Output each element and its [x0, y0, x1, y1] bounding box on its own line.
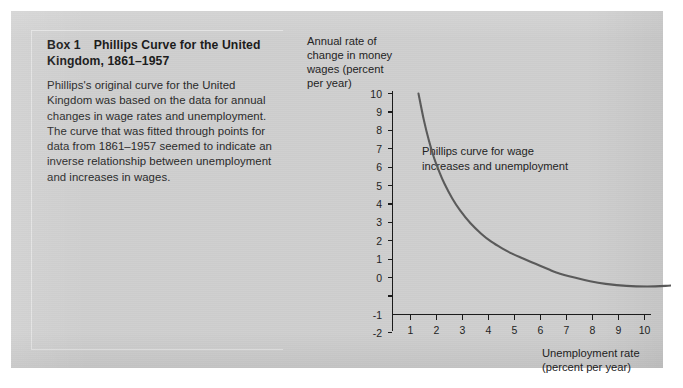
- box-text-container: Box 1Phillips Curve for the United Kingd…: [47, 38, 275, 185]
- y-tick-2: 2: [376, 235, 382, 247]
- x-tick-6: 6: [538, 324, 544, 336]
- x-axis-tick-labels: 1 2 3 4 5 6 7 8 9 10: [408, 324, 651, 336]
- y-tick-6: 6: [376, 161, 382, 173]
- phillips-curve-line: [419, 94, 672, 287]
- y-tick-neg1: -1: [373, 309, 382, 321]
- y-axis-label-line2: change in money: [307, 49, 393, 61]
- y-tick-3: 3: [376, 216, 382, 228]
- y-tick-5: 5: [376, 180, 382, 192]
- y-axis-tick-labels: 10 9 8 7 6 5 4 3 2 1 0 -1 -2: [370, 88, 382, 339]
- x-tick-9: 9: [616, 324, 622, 336]
- y-axis-label-line4: per year): [307, 77, 352, 89]
- y-tick-neg2: -2: [373, 327, 382, 339]
- box-title: Box 1Phillips Curve for the United Kingd…: [47, 38, 275, 69]
- y-tick-7: 7: [376, 143, 382, 155]
- x-tick-2: 2: [434, 324, 440, 336]
- box-number-label: Box 1: [47, 38, 81, 52]
- y-tick-8: 8: [376, 124, 382, 136]
- curve-annotation-line1: Phillips curve for wage: [422, 145, 534, 157]
- x-axis-label-line2: (percent per year): [542, 361, 631, 373]
- y-tick-4: 4: [376, 198, 382, 210]
- x-axis-label-line1: Unemployment rate: [542, 347, 640, 359]
- phillips-curve-chart: Annual rate of change in money wages (pe…: [299, 25, 671, 377]
- y-tick-1: 1: [376, 253, 382, 265]
- box-body-text: Phillips's original curve for the United…: [47, 78, 275, 185]
- screenshot-page: Box 1Phillips Curve for the United Kingd…: [0, 0, 683, 388]
- y-axis-ticks: [388, 94, 392, 333]
- y-axis-label-line1: Annual rate of: [307, 35, 378, 47]
- x-tick-3: 3: [460, 324, 466, 336]
- y-tick-10: 10: [370, 88, 382, 100]
- y-tick-0: 0: [376, 272, 382, 284]
- y-axis-label-line3: wages (percent: [306, 63, 384, 75]
- x-tick-4: 4: [486, 324, 492, 336]
- figure-panel: Box 1Phillips Curve for the United Kingd…: [11, 11, 663, 368]
- x-tick-7: 7: [564, 324, 570, 336]
- x-tick-5: 5: [512, 324, 518, 336]
- curve-annotation-line2: increases and unemployment: [422, 160, 569, 172]
- x-tick-8: 8: [590, 324, 596, 336]
- x-tick-1: 1: [408, 324, 414, 336]
- x-tick-10: 10: [639, 324, 651, 336]
- y-tick-9: 9: [376, 106, 382, 118]
